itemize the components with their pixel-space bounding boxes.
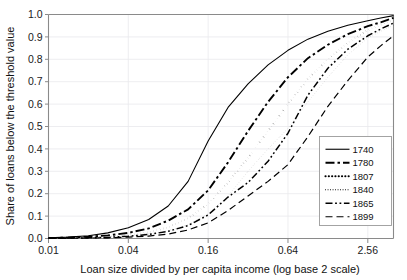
legend-label-1740: 1740 xyxy=(353,144,374,155)
y-tick-label: 0.8 xyxy=(28,53,43,65)
legend-label-1899: 1899 xyxy=(353,211,374,222)
line-chart: 0.00.10.20.30.40.50.60.70.80.91.0 0.010.… xyxy=(0,0,407,280)
y-tick-labels: 0.00.10.20.30.40.50.60.70.80.91.0 xyxy=(28,8,43,244)
y-tick-label: 0.2 xyxy=(28,187,43,199)
x-tick-label: 2.56 xyxy=(358,244,379,256)
y-axis-title: Share of loans below the threshold value xyxy=(4,27,16,226)
x-tick-labels: 0.010.040.160.642.56 xyxy=(38,244,378,256)
y-tick-label: 0.6 xyxy=(28,98,43,110)
legend-label-1780: 1780 xyxy=(353,157,374,168)
chart-container: 0.00.10.20.30.40.50.60.70.80.91.0 0.010.… xyxy=(0,0,407,280)
legend: 174017801807184018651899 xyxy=(320,137,392,226)
y-tick-label: 1.0 xyxy=(28,8,43,20)
x-tick-label: 0.16 xyxy=(198,244,219,256)
legend-label-1840: 1840 xyxy=(353,184,374,195)
y-tick-label: 0.3 xyxy=(28,165,43,177)
x-tick-label: 0.64 xyxy=(278,244,299,256)
x-tick-label: 0.01 xyxy=(38,244,59,256)
y-tick-label: 0.4 xyxy=(28,143,43,155)
x-tick-label: 0.04 xyxy=(118,244,139,256)
y-tick-label: 0.0 xyxy=(28,232,43,244)
x-axis xyxy=(49,239,394,244)
y-tick-label: 0.9 xyxy=(28,31,43,43)
y-tick-label: 0.7 xyxy=(28,75,43,87)
legend-label-1807: 1807 xyxy=(353,171,374,182)
y-tick-label: 0.5 xyxy=(28,120,43,132)
legend-label-1865: 1865 xyxy=(353,198,374,209)
x-axis-title: Loan size divided by per capita income (… xyxy=(80,263,359,275)
y-tick-label: 0.1 xyxy=(28,210,43,222)
